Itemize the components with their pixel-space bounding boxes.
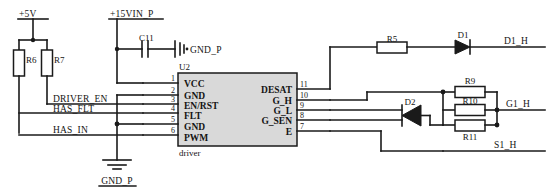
ground-label-cap: GND_P bbox=[190, 45, 222, 55]
ground-symbol-cap: GND_P bbox=[175, 41, 222, 57]
resistor-body-r10 bbox=[455, 105, 485, 116]
component-r10: R10 bbox=[443, 96, 499, 116]
pin-number-4: 4 bbox=[171, 104, 175, 113]
pin-name-pwm: PWM bbox=[184, 133, 208, 143]
component-r6: R6 bbox=[14, 40, 38, 133]
pin-name-flt: FLT bbox=[184, 111, 202, 121]
net-label-5v: +5V bbox=[19, 9, 37, 19]
pin-number-2: 2 bbox=[171, 86, 175, 95]
pin-name-gnd-5: GND bbox=[184, 122, 205, 132]
pin-name-vcc: VCC bbox=[184, 79, 205, 89]
component-d1: D1 D1_H bbox=[455, 30, 545, 54]
ic-ground-branch: GND_P bbox=[99, 95, 143, 186]
junction-5v bbox=[31, 38, 35, 42]
pin-number-11: 11 bbox=[300, 80, 308, 89]
designator-r6: R6 bbox=[26, 55, 37, 65]
diode-triangle-d1 bbox=[455, 40, 470, 54]
component-c11: C11 bbox=[117, 33, 175, 57]
pin-number-6: 6 bbox=[171, 126, 175, 135]
ic-designator-u2: U2 bbox=[179, 62, 190, 72]
ic-u2[interactable]: U2 driver 1 2 3 4 5 6 VCC GND EN/RST FLT… bbox=[143, 62, 330, 158]
pin-name-en-rst: EN/RST bbox=[184, 101, 219, 111]
schematic-canvas: +5V R6 R7 +15VIN_P bbox=[0, 0, 552, 195]
pin-name-g-sen: G_SEN bbox=[261, 116, 292, 126]
pin-number-10: 10 bbox=[300, 91, 308, 100]
net-label-driver-en: DRIVER_EN bbox=[53, 94, 108, 104]
designator-d2: D2 bbox=[405, 97, 416, 107]
signal-g1-h: G1_H bbox=[497, 99, 545, 110]
pin-name-e: E bbox=[286, 127, 292, 137]
pin-number-5: 5 bbox=[171, 115, 175, 124]
designator-d1: D1 bbox=[458, 30, 469, 40]
ground-label-ic: GND_P bbox=[101, 176, 133, 186]
resistor-body-r5 bbox=[377, 42, 407, 53]
power-net-5v: +5V bbox=[18, 9, 48, 42]
pin-number-7: 7 bbox=[300, 122, 304, 131]
component-d2: D2 bbox=[402, 97, 443, 126]
pin-name-g-h: G_H bbox=[272, 96, 292, 106]
schematic-drawing: +5V R6 R7 +15VIN_P bbox=[0, 0, 552, 195]
signal-s1-h: S1_H bbox=[443, 140, 545, 151]
designator-r9: R9 bbox=[465, 76, 476, 86]
pin-number-3: 3 bbox=[171, 95, 175, 104]
resistor-body-r11 bbox=[455, 120, 485, 131]
diode-triangle-d2 bbox=[402, 105, 421, 126]
power-net-15vin-p: +15VIN_P bbox=[109, 9, 163, 83]
net-label-has-flt: HAS_FLT bbox=[53, 104, 94, 114]
net-label-has-in: HAS_IN bbox=[53, 125, 88, 135]
net-label-15vin-p: +15VIN_P bbox=[110, 9, 153, 19]
pin-name-g-l: G_L bbox=[274, 106, 292, 116]
net-label-d1-h: D1_H bbox=[504, 36, 528, 46]
designator-r7: R7 bbox=[54, 55, 65, 65]
pin-number-9: 9 bbox=[300, 101, 304, 110]
designator-r11: R11 bbox=[463, 132, 478, 142]
gnd-cap-dot bbox=[186, 48, 189, 51]
signal-labels-left: DRIVER_EN HAS_FLT HAS_IN bbox=[53, 94, 108, 135]
resistor-body-r6 bbox=[14, 50, 25, 76]
pin-number-1: 1 bbox=[171, 74, 175, 83]
resistor-body-r7 bbox=[42, 50, 53, 76]
desat-branch bbox=[330, 47, 377, 89]
pin-name-gnd-2: GND bbox=[184, 91, 205, 101]
pin-number-8: 8 bbox=[300, 111, 304, 120]
pin-name-desat: DESAT bbox=[261, 85, 293, 95]
emitter-branch bbox=[330, 131, 443, 151]
net-label-s1-h: S1_H bbox=[494, 140, 516, 150]
component-r5: R5 bbox=[377, 34, 455, 53]
ic-subtitle-driver: driver bbox=[179, 148, 201, 158]
net-label-g1-h: G1_H bbox=[506, 99, 530, 109]
